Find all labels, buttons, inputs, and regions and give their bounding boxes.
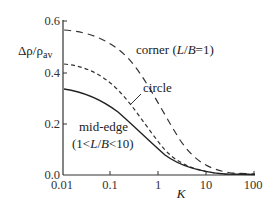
circle-leader-line [131, 94, 141, 104]
annotation-mid-edge: mid-edge [79, 119, 128, 134]
x-tick-0.1: 0.1 [102, 178, 118, 192]
x-tick-10: 10 [200, 178, 213, 192]
y-tick-0.6: 0.6 [44, 14, 60, 28]
x-axis-label: K [176, 186, 187, 201]
y-axis-label: Δρ/ρav [18, 43, 52, 60]
x-tick-labels: 0.01 0.1 1 10 100 [51, 178, 262, 192]
chart: 0.6 0.4 0.2 0.0 0.01 0.1 1 10 100 Δρ/ρav… [0, 0, 280, 206]
annotation-circle: circle [143, 80, 172, 95]
x-tick-0.01: 0.01 [51, 178, 73, 192]
annotation-corner: corner (L/B=1) [136, 42, 214, 57]
y-tick-labels: 0.6 0.4 0.2 0.0 [44, 14, 60, 182]
y-tick-0.4: 0.4 [44, 66, 60, 80]
x-tick-100: 100 [244, 178, 263, 192]
annotation-mid-edge-range: (1<L/B<10) [72, 136, 134, 151]
y-tick-0.2: 0.2 [44, 117, 60, 131]
x-tick-1: 1 [155, 178, 161, 192]
